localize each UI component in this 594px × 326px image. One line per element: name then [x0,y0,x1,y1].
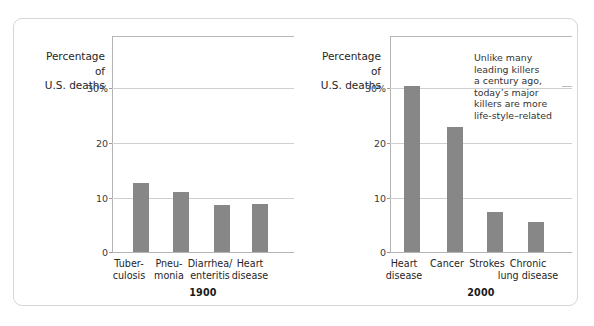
y-axis-caption-line-2: of [296,64,381,79]
x-label-chronic-lung-disease: Chronic lung disease [490,258,566,281]
y-axis-line [112,36,113,253]
plot-top-rule [390,36,572,37]
gridline-20: 20 [112,143,294,144]
y-tick-label-20: 20 [374,137,386,148]
plot-top-rule [112,36,294,37]
bar-chronic-lung-disease [528,222,544,252]
y-axis-caption-line-2: of [20,64,105,79]
x-label-line: disease [366,270,442,282]
y-tick-label-20: 20 [96,137,108,148]
tick-mark-30 [387,88,390,89]
chart-year-label-2000: 2000 [390,287,572,298]
x-label-line: Heart [212,258,288,270]
bar-heart-disease [404,86,420,252]
y-axis-caption-line-1: Percentage [296,49,381,64]
tick-mark-20 [387,143,390,144]
y-axis-line [390,36,391,253]
y-tick-label-0: 0 [380,247,386,258]
x-label-line: Chronic [490,258,566,270]
y-tick-label-30: 30% [87,82,108,93]
annotation-line-4: today’s major [474,87,578,99]
x-label-heart-disease: Heart disease [212,258,288,281]
tick-mark-20 [109,143,112,144]
annotation-line-1: Unlike many [474,52,578,64]
tick-mark-0 [387,252,390,253]
annotation-line-5: killers are more [474,98,578,110]
y-tick-label-30: 30% [365,82,386,93]
tick-mark-10 [387,198,390,199]
x-label-line: lung disease [490,270,566,282]
bar-pneumonia [173,192,189,252]
tick-mark-10 [109,198,112,199]
chart-year-label-1900: 1900 [112,287,294,298]
plot-area-1900: 30% 20 10 0 [112,36,294,253]
gridline-0: 0 [112,252,294,253]
bar-tuberculosis [133,183,149,252]
annotation-leader-line [562,86,572,87]
bar-cancer [447,127,463,252]
tick-mark-30 [109,88,112,89]
gridline-0: 0 [390,252,572,253]
y-tick-label-10: 10 [374,192,386,203]
y-tick-label-10: 10 [96,192,108,203]
y-axis-caption-line-1: Percentage [20,49,105,64]
y-tick-label-0: 0 [102,247,108,258]
bar-diarrhea-enteritis [214,205,230,252]
annotation-line-2: leading killers [474,64,578,76]
chart-panel-1900: Percentage of U.S. deaths 30% 20 10 [0,0,300,326]
figure: Percentage of U.S. deaths 30% 20 10 [0,0,594,326]
bar-heart-disease [252,204,268,252]
annotation-line-6: life-style–related [474,110,578,122]
bar-strokes [487,212,503,252]
gridline-30: 30% [112,88,294,89]
tick-mark-0 [109,252,112,253]
x-label-line: disease [212,270,288,282]
